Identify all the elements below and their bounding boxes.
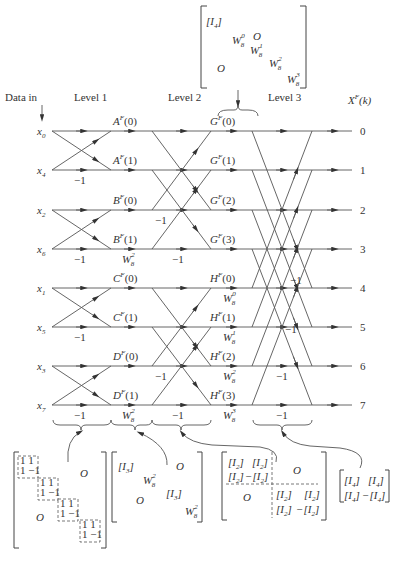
- node-labels: −1−1−1−1W28W28−1−1−1−1W08W18W28W38−1−1−1…: [74, 114, 302, 424]
- level-2-butterflies: [152, 131, 211, 405]
- svg-text:O: O: [80, 467, 88, 479]
- svg-text:−[I2]: −[I2]: [245, 470, 268, 485]
- svg-text:[I3]: [I3]: [118, 460, 134, 475]
- input-label: x7: [36, 399, 46, 414]
- matrix-level-1: 1 11 −11 11 −11 11 −11 11 −1 O O: [14, 452, 106, 548]
- level-2-node-label: GF(2): [210, 193, 235, 207]
- svg-text:W28: W28: [269, 55, 282, 72]
- svg-text:[I2]: [I2]: [276, 503, 292, 518]
- twiddle-factor: W28: [122, 251, 135, 268]
- svg-text:W28: W28: [185, 503, 198, 520]
- svg-text:O: O: [217, 62, 225, 74]
- twiddle-factor: W18: [223, 329, 236, 346]
- svg-text:−[I2]: −[I2]: [296, 503, 319, 518]
- minus-one-weight: −1: [290, 274, 302, 286]
- level-3-butterflies: [252, 131, 312, 405]
- level-1-node-label: BF(0): [113, 193, 137, 207]
- twiddle-factor: W08: [223, 290, 236, 307]
- signal-rows: x00x41x22x63x14x55x36x77: [36, 125, 366, 414]
- svg-text:[I3]: [I3]: [166, 487, 182, 502]
- svg-text:1 −1: 1 −1: [82, 528, 102, 540]
- svg-text:[I4]: [I4]: [206, 15, 222, 30]
- input-label: x2: [36, 204, 46, 219]
- stage-braces: [53, 420, 362, 468]
- level-1-node-label: AF(0): [112, 114, 137, 128]
- svg-text:W08: W08: [232, 32, 245, 49]
- svg-text:−[I4]: −[I4]: [362, 489, 385, 504]
- level-3-label: Level 3: [268, 91, 302, 103]
- level-2-node-label: GF(1): [210, 153, 235, 167]
- svg-text:[I2]: [I2]: [228, 456, 244, 471]
- output-index: 5: [360, 321, 366, 333]
- minus-one-weight: −1: [74, 331, 86, 343]
- level-2-node-label: GF(0): [210, 114, 235, 128]
- svg-text:O: O: [243, 491, 251, 503]
- input-label: x3: [36, 360, 46, 375]
- output-index: 4: [360, 282, 366, 294]
- level-1-node-label: AF(1): [112, 153, 137, 167]
- level-2-node-label: HF(3): [209, 388, 235, 402]
- svg-text:[I2]: [I2]: [252, 456, 268, 471]
- minus-one-weight: −1: [155, 214, 167, 226]
- input-label: x4: [36, 164, 46, 179]
- matrix-level-3-butterfly: [I4][I4][I4]−[I4]: [340, 470, 389, 504]
- output-index: 0: [360, 125, 366, 137]
- minus-one-weight: −1: [74, 253, 86, 265]
- input-label: x1: [36, 282, 45, 297]
- level-1-label: Level 1: [74, 91, 107, 103]
- svg-text:O: O: [176, 460, 184, 472]
- input-label: x0: [36, 125, 46, 140]
- output-index: 6: [360, 360, 366, 372]
- level-1-butterflies: [52, 131, 111, 405]
- svg-text:O: O: [253, 30, 261, 42]
- minus-one-weight: −1: [74, 409, 86, 421]
- minus-one-weight: −1: [276, 370, 288, 382]
- output-index: 2: [360, 204, 366, 216]
- level-1-node-label: BF(1): [113, 232, 137, 246]
- twiddle-factor: W28: [223, 368, 236, 385]
- svg-text:[I2]: [I2]: [228, 470, 244, 485]
- svg-text:[I4]: [I4]: [344, 489, 360, 504]
- minus-one-weight: −1: [285, 323, 297, 335]
- minus-one-weight: −1: [172, 409, 184, 421]
- fft-butterfly-diagram: [I4] W08 W18 W28 W38 O O Data in Level 1…: [0, 0, 408, 563]
- twiddle-factor: W28: [122, 407, 135, 424]
- svg-text:W38: W38: [287, 71, 300, 88]
- level-1-node-label: DF(0): [112, 349, 138, 363]
- output-label: XF(k): [347, 93, 372, 107]
- level-2-label: Level 2: [168, 91, 201, 103]
- level-2-node-label: HF(0): [209, 271, 235, 285]
- level-1-node-label: DF(1): [112, 388, 138, 402]
- output-index: 7: [360, 399, 366, 411]
- input-label: x6: [36, 243, 46, 258]
- minus-one-weight: −1: [74, 174, 86, 186]
- level-1-node-label: CF(1): [113, 310, 138, 324]
- svg-text:O: O: [36, 511, 44, 523]
- svg-text:1 −1: 1 −1: [60, 507, 80, 519]
- minus-one-weight: −1: [155, 370, 167, 382]
- minus-one-weight: −1: [172, 253, 184, 265]
- svg-text:O: O: [136, 494, 144, 506]
- svg-text:1 −1: 1 −1: [20, 464, 40, 476]
- svg-text:W28: W28: [143, 472, 156, 489]
- svg-text:[I4]: [I4]: [368, 474, 384, 489]
- svg-text:[I2]: [I2]: [304, 488, 320, 503]
- svg-text:[I4]: [I4]: [344, 474, 360, 489]
- input-label: x5: [36, 321, 46, 336]
- matrix-level-2-butterfly: [I2][I2][I2]−[I2][I2][I2][I2]−[I2] O O: [222, 452, 326, 520]
- svg-text:O: O: [293, 464, 301, 476]
- svg-text:[I2]: [I2]: [276, 488, 292, 503]
- matrix-level-2-twiddle: [I3] O W28 [I3] O W28: [112, 452, 202, 522]
- output-index: 1: [360, 164, 366, 176]
- svg-text:W18: W18: [250, 42, 263, 59]
- minus-one-weight: −1: [276, 409, 288, 421]
- data-in-label: Data in: [5, 91, 38, 103]
- svg-text:1 −1: 1 −1: [40, 486, 60, 498]
- output-index: 3: [360, 243, 366, 255]
- level-2-node-label: HF(1): [209, 310, 235, 324]
- level-1-node-label: CF(0): [113, 271, 138, 285]
- level-2-node-label: HF(2): [209, 349, 235, 363]
- twiddle-factor: W38: [223, 407, 236, 424]
- level-2-node-label: GF(3): [210, 232, 235, 246]
